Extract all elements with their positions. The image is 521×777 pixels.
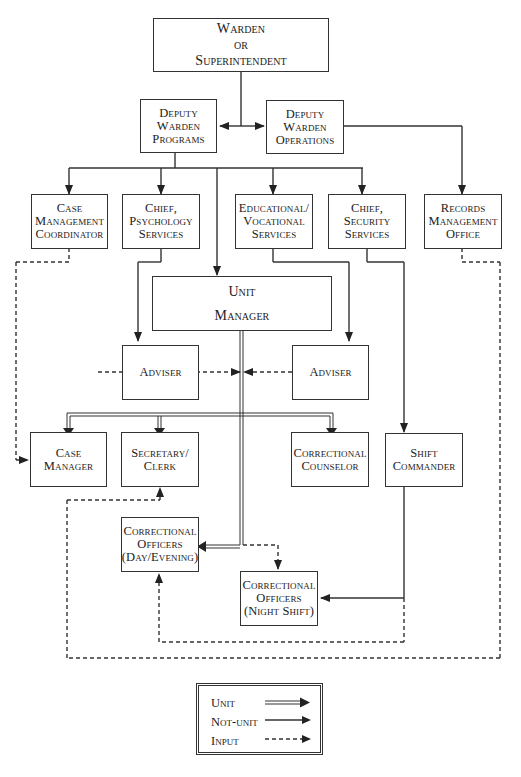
label: Commander bbox=[393, 460, 456, 473]
label: Case bbox=[56, 447, 82, 460]
label: or bbox=[234, 37, 248, 53]
label: Secretary/ bbox=[131, 447, 189, 460]
label: Manager bbox=[215, 304, 270, 328]
label: Deputy bbox=[159, 107, 198, 120]
label: (Day/Evening) bbox=[122, 551, 198, 564]
label: Deputy bbox=[286, 108, 325, 121]
node-correctional-officers-day: Correctional Officers (Day/Evening) bbox=[121, 517, 199, 572]
label: Manager bbox=[44, 460, 93, 473]
node-deputy-warden-programs: Deputy Warden Programs bbox=[140, 99, 217, 153]
node-educational-vocational-services: Educational/ Vocational Services bbox=[235, 194, 313, 249]
label: Adviser bbox=[139, 366, 181, 379]
node-shift-commander: Shift Commander bbox=[385, 433, 463, 487]
node-records-management-office: Records Management Office bbox=[424, 194, 502, 249]
node-secretary-clerk: Secretary/ Clerk bbox=[121, 432, 199, 487]
node-correctional-officers-night: Correctional Officers (Night Shift) bbox=[240, 571, 318, 626]
label: Warden bbox=[157, 120, 200, 133]
legend-not-unit-label: Not-unit bbox=[211, 715, 258, 730]
label: Services bbox=[252, 228, 297, 241]
label: Warden bbox=[217, 21, 265, 37]
label: Correctional bbox=[293, 447, 366, 460]
label: (Night Shift) bbox=[244, 605, 314, 618]
label: Counselor bbox=[301, 460, 358, 473]
label: Programs bbox=[152, 133, 204, 146]
label: Clerk bbox=[144, 460, 176, 473]
label: Operations bbox=[276, 134, 335, 147]
label: Services bbox=[345, 228, 390, 241]
node-case-manager: Case Manager bbox=[30, 432, 107, 487]
label: Warden bbox=[283, 121, 326, 134]
label: Superintendent bbox=[195, 53, 286, 69]
legend-input-label: Input bbox=[211, 734, 239, 749]
label: Office bbox=[446, 228, 480, 241]
node-deputy-warden-operations: Deputy Warden Operations bbox=[266, 100, 344, 154]
node-correctional-counselor: Correctional Counselor bbox=[291, 432, 369, 487]
node-chief-security-services: Chief, Security Services bbox=[328, 194, 406, 249]
node-unit-manager: Unit Manager bbox=[152, 276, 332, 331]
node-chief-psychology-services: Chief, Psychology Services bbox=[122, 194, 200, 249]
label: Adviser bbox=[309, 366, 351, 379]
label: Coordinator bbox=[36, 228, 104, 241]
connector-lines bbox=[0, 0, 521, 777]
legend: Unit Not-unit Input bbox=[196, 683, 323, 755]
node-warden: Warden or Superintendent bbox=[153, 18, 329, 72]
node-adviser-right: Adviser bbox=[292, 345, 369, 400]
label: Unit bbox=[228, 280, 255, 304]
node-case-management-coordinator: Case Management Coordinator bbox=[31, 194, 108, 249]
legend-unit-label: Unit bbox=[211, 696, 235, 711]
label: Services bbox=[139, 228, 184, 241]
node-adviser-left: Adviser bbox=[122, 345, 199, 400]
